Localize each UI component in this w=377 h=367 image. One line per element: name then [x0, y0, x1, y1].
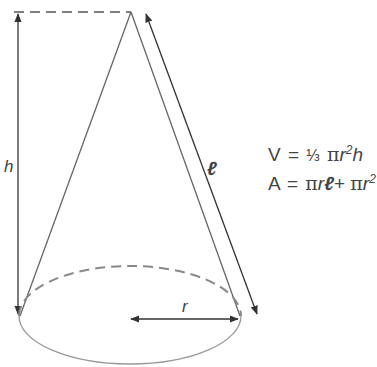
cone-diagram: h ℓ r V = ⅓ πr2h A = πrℓ+ πr2 — [0, 0, 377, 367]
radius-label: r — [182, 297, 189, 316]
cone-right-side — [131, 12, 240, 316]
slant-height-label: ℓ — [207, 158, 217, 179]
area-formula: A = πrℓ+ πr2 — [268, 172, 376, 194]
base-front-arc — [19, 316, 241, 364]
base-back-dashed-arc — [19, 266, 241, 316]
height-label: h — [4, 157, 13, 176]
cone-left-side — [20, 12, 131, 316]
volume-formula: V = ⅓ πr2h — [268, 143, 363, 165]
